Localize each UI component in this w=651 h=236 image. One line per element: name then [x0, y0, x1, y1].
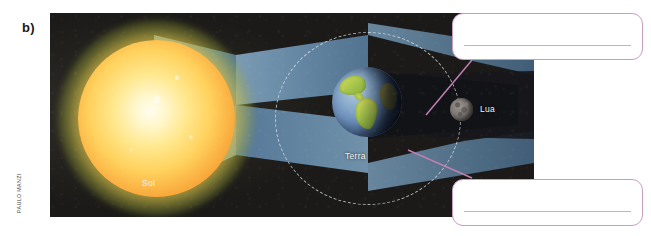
answer-box-bottom[interactable] — [452, 179, 643, 226]
answer-writing-rule-top — [464, 45, 631, 46]
sun-label: Sol — [142, 178, 155, 188]
sun-body — [78, 40, 235, 197]
earth-body — [332, 67, 402, 137]
earth-terminator-shading — [332, 67, 402, 137]
moon-body — [450, 98, 473, 121]
answer-writing-rule-bottom — [464, 211, 631, 212]
illustrator-credit: PAULO MANZI — [16, 149, 22, 213]
answer-box-top[interactable] — [452, 13, 643, 60]
item-letter-label: b) — [22, 20, 35, 35]
moon-label: Lua — [480, 104, 495, 114]
earth-label: Terra — [345, 151, 366, 161]
exercise-figure: b) PAULO MANZI — [0, 0, 651, 236]
